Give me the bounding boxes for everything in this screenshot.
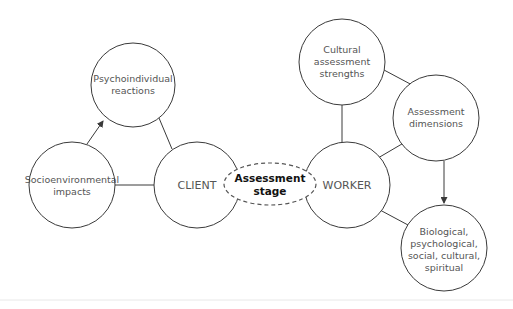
node-label: assessment bbox=[314, 56, 371, 67]
svg-text:stage: stage bbox=[254, 185, 287, 197]
svg-text:social, cultural,: social, cultural, bbox=[408, 250, 480, 261]
svg-text:Cultural: Cultural bbox=[323, 44, 360, 55]
svg-text:strengths: strengths bbox=[320, 68, 365, 79]
svg-text:Biological,: Biological, bbox=[420, 226, 469, 237]
edge-worker-biological bbox=[380, 210, 408, 225]
node-biological-psychological-social: Biological, psychological, social, cultu… bbox=[401, 205, 487, 291]
node-label: Socioenvironmental bbox=[25, 174, 119, 185]
edge-socioenvironmental-to-psychoindividual bbox=[87, 121, 103, 144]
node-label: impacts bbox=[53, 186, 91, 197]
node-psychoindividual: Psychoindividual reactions bbox=[91, 43, 175, 127]
svg-text:impacts: impacts bbox=[53, 186, 91, 197]
svg-text:spiritual: spiritual bbox=[425, 262, 463, 273]
node-label: stage bbox=[254, 185, 287, 197]
node-label: Biological, bbox=[420, 226, 469, 237]
node-label: psychological, bbox=[410, 238, 477, 249]
svg-text:Socioenvironmental: Socioenvironmental bbox=[25, 174, 119, 185]
node-label: Assessment bbox=[235, 172, 306, 184]
node-label: social, cultural, bbox=[408, 250, 480, 261]
node-label: Assessment bbox=[408, 106, 465, 117]
svg-text:Assessment: Assessment bbox=[235, 172, 306, 184]
svg-text:CLIENT: CLIENT bbox=[178, 179, 217, 192]
node-label: WORKER bbox=[323, 179, 372, 192]
node-assessment-dimensions: Assessment dimensions bbox=[393, 75, 479, 161]
node-socioenvironmental: Socioenvironmental impacts bbox=[25, 142, 119, 228]
node-cultural-assessment-strengths: Cultural assessment strengths bbox=[299, 19, 385, 105]
node-label: CLIENT bbox=[178, 179, 217, 192]
node-label: reactions bbox=[111, 85, 155, 96]
svg-text:Assessment: Assessment bbox=[408, 106, 465, 117]
svg-text:psychological,: psychological, bbox=[410, 238, 477, 249]
node-label: Psychoindividual bbox=[93, 73, 172, 84]
svg-text:reactions: reactions bbox=[111, 85, 155, 96]
node-label: dimensions bbox=[409, 118, 463, 129]
assessment-diagram: Psychoindividual reactions Socioenvironm… bbox=[0, 0, 513, 309]
node-assessment-stage: Assessment stage bbox=[224, 163, 316, 205]
node-worker: WORKER bbox=[304, 142, 390, 228]
edge-psychoindividual-client bbox=[159, 118, 172, 149]
svg-text:dimensions: dimensions bbox=[409, 118, 463, 129]
node-label: Cultural bbox=[323, 44, 360, 55]
node-label: spiritual bbox=[425, 262, 463, 273]
svg-text:assessment: assessment bbox=[314, 56, 371, 67]
node-label: strengths bbox=[320, 68, 365, 79]
svg-text:Psychoindividual: Psychoindividual bbox=[93, 73, 172, 84]
svg-text:WORKER: WORKER bbox=[323, 179, 372, 192]
